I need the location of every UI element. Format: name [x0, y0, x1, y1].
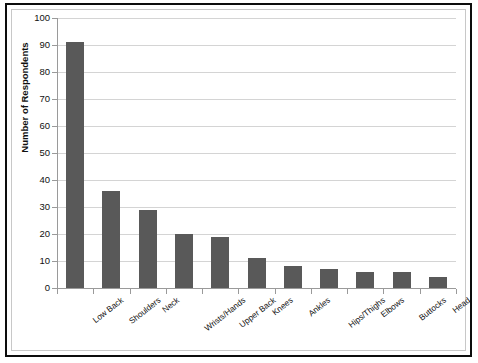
x-axis-tick-label: Neck: [160, 295, 181, 315]
bar-chart: 0102030405060708090100 Low BackShoulders…: [0, 0, 478, 363]
x-axis-tick-label: Low Back: [91, 295, 126, 325]
y-axis-title-wrapper: Number of Respondents: [0, 0, 1, 363]
x-axis-tick-label: Shoulders: [127, 295, 163, 326]
x-axis-tick-labels: Low BackShouldersNeckWrists/HandsUpper B…: [0, 0, 478, 363]
x-axis-tick-label: Head: [450, 295, 472, 315]
x-axis-tick-label: Wrists/Hands: [202, 295, 247, 333]
x-axis-tick-label: Buttocks: [416, 295, 447, 322]
x-axis-tick-label: Ankles: [306, 295, 332, 318]
y-axis-title: Number of Respondents: [19, 38, 30, 158]
